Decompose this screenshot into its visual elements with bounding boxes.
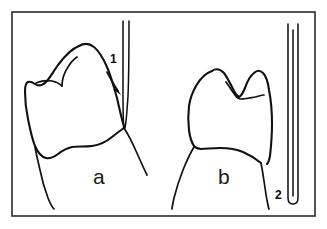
callout-number-2: 2 — [275, 188, 282, 202]
callout-number-1: 1 — [110, 52, 117, 66]
figure-root: 1 a 2 b — [0, 0, 327, 229]
panel-letter-a: a — [93, 165, 105, 188]
panel-letter-b: b — [218, 165, 230, 188]
figure-border — [12, 12, 315, 216]
dental-diagram-svg: 1 a 2 b — [0, 0, 327, 229]
